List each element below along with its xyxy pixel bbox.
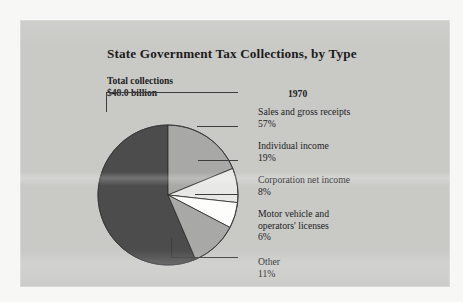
pie-chart [97, 124, 239, 266]
callout-motor-vehicle-licenses: Motor vehicle and operators' licenses 6% [258, 208, 329, 243]
callout-motor-pct: 6% [258, 231, 329, 243]
chart-panel: State Government Tax Collections, by Typ… [20, 20, 450, 287]
callout-other-pct: 11% [258, 268, 280, 280]
callout-individual-pct: 19% [258, 152, 329, 164]
callout-other-name: Other [258, 256, 280, 267]
callout-sales-name: Sales and gross receipts [258, 106, 350, 117]
figure-screenshot: State Government Tax Collections, by Typ… [0, 0, 463, 302]
year-label: 1970 [288, 88, 307, 99]
chart-title: State Government Tax Collections, by Typ… [107, 46, 357, 62]
callout-individual-income: Individual income 19% [258, 140, 329, 163]
callout-corporation-pct: 8% [258, 186, 350, 198]
callout-motor-name-line1: Motor vehicle and [258, 208, 329, 219]
callout-corporation-name: Corporation net income [258, 174, 350, 185]
callout-corporation-net-income: Corporation net income 8% [258, 174, 350, 197]
total-collections-block: Total collections $48.0 billion [107, 75, 173, 99]
callout-other: Other 11% [258, 256, 280, 279]
callout-sales-pct: 57% [258, 118, 350, 130]
total-collections-value: $48.0 billion [107, 87, 157, 98]
pie-chart-svg [97, 124, 239, 266]
callout-sales-and-gross-receipts: Sales and gross receipts 57% [258, 106, 350, 129]
callout-individual-name: Individual income [258, 140, 329, 151]
callout-motor-name-line2: operators' licenses [258, 220, 329, 231]
total-collections-label: Total collections [107, 75, 173, 86]
